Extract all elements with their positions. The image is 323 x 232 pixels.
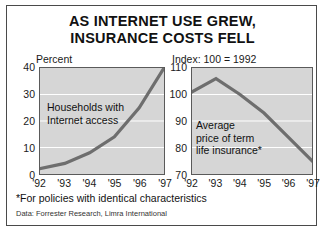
y-tick-label: 110: [170, 61, 187, 73]
y-axis-caption-left: Percent: [36, 53, 72, 65]
x-tick-label: '94: [233, 177, 247, 189]
x-tick-label: '93: [209, 177, 223, 189]
x-tick-label: '93: [57, 177, 71, 189]
title-line-1: AS INTERNET USE GREW,: [69, 13, 256, 29]
figure-frame: AS INTERNET USE GREW, INSURANCE COSTS FE…: [6, 5, 317, 226]
plot-area-left: [39, 67, 165, 175]
plot-area-right: [191, 67, 313, 175]
x-tick-label: '95: [108, 177, 122, 189]
y-axis-ticks-left: 010203040: [15, 67, 37, 175]
x-tick-label: '96: [133, 177, 147, 189]
y-tick-label: 40: [23, 61, 35, 73]
x-tick-label: '95: [257, 177, 271, 189]
y-axis-ticks-right: 708090100110: [165, 67, 189, 175]
x-tick-label: '97: [158, 177, 172, 189]
y-tick-label: 30: [23, 88, 35, 100]
plot-wrapper-left: 010203040 Households with Internet acces…: [15, 67, 167, 175]
x-tick-label: '92: [184, 177, 198, 189]
data-series-line: [192, 79, 312, 161]
y-tick-label: 20: [23, 115, 35, 127]
x-tick-label: '92: [32, 177, 46, 189]
x-axis-ticks-right: '92'93'94'95'96'97: [191, 177, 313, 191]
y-tick-label: 100: [169, 88, 187, 100]
x-tick-label: '96: [282, 177, 296, 189]
x-tick-label: '97: [306, 177, 320, 189]
x-tick-label: '94: [83, 177, 97, 189]
data-source: Data: Forrester Research, Limra Internat…: [16, 209, 167, 218]
y-tick-label: 80: [175, 142, 187, 154]
data-series-line: [40, 68, 164, 169]
plot-wrapper-right: 708090100110 Average price of term life …: [165, 67, 315, 175]
chart-figure: AS INTERNET USE GREW, INSURANCE COSTS FE…: [0, 0, 323, 232]
title-line-2: INSURANCE COSTS FELL: [7, 30, 318, 47]
y-tick-label: 90: [175, 115, 187, 127]
y-tick-label: 10: [23, 142, 35, 154]
line-chart-insurance-price: [192, 68, 312, 174]
footnote: *For policies with identical characteris…: [16, 192, 207, 204]
x-axis-ticks-left: '92'93'94'95'96'97: [39, 177, 165, 191]
page-title: AS INTERNET USE GREW, INSURANCE COSTS FE…: [7, 13, 318, 47]
line-chart-internet-use: [40, 68, 164, 174]
